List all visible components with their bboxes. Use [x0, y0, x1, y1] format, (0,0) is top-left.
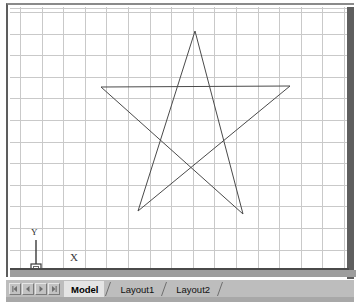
viewport-right-shadow	[347, 7, 354, 279]
next-tab-button[interactable]	[35, 283, 47, 295]
tab-model[interactable]: Model	[64, 281, 104, 297]
tab-layout2-label: Layout2	[176, 284, 210, 295]
tab-separator	[160, 281, 169, 297]
tab-separator	[104, 281, 113, 297]
last-tab-button[interactable]	[48, 283, 60, 295]
window-bottom-filler	[0, 302, 360, 308]
next-icon	[37, 285, 45, 293]
drawing-canvas-frame: Y X	[6, 3, 354, 277]
tab-layout2[interactable]: Layout2	[169, 281, 216, 297]
ucs-axes-icon	[18, 229, 98, 270]
tab-separator	[216, 281, 225, 297]
last-icon	[50, 285, 58, 293]
viewport-bottom-shadow	[10, 270, 356, 277]
pentagram-shape[interactable]	[101, 31, 290, 214]
tab-layout1[interactable]: Layout1	[113, 281, 160, 297]
ucs-x-axis-label: X	[70, 251, 78, 263]
layout-tab-bar: Model Layout1 Layout2	[6, 280, 354, 297]
tab-layout1-label: Layout1	[120, 284, 154, 295]
previous-icon	[24, 285, 32, 293]
drawing-area[interactable]: Y X	[10, 7, 349, 270]
ucs-y-axis-label: Y	[31, 227, 38, 237]
previous-tab-button[interactable]	[22, 283, 34, 295]
ucs-icon: Y X	[18, 229, 98, 270]
tab-navigation-buttons	[6, 280, 60, 297]
first-tab-button[interactable]	[9, 283, 21, 295]
cad-application-window: Y X	[0, 0, 360, 308]
first-icon	[11, 285, 19, 293]
tab-model-label: Model	[71, 284, 98, 295]
layout-tabs: Model Layout1 Layout2	[64, 280, 225, 297]
